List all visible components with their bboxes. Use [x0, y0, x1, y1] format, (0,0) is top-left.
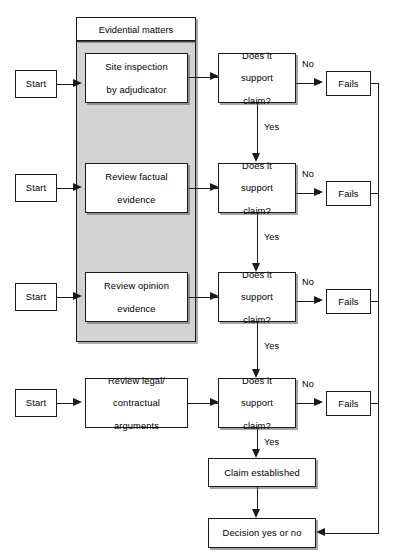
decision-label-row-2-line-3: claim?: [238, 205, 276, 216]
edge-label-yes-row-1: Yes: [264, 122, 279, 132]
arrowhead-claim-to-decision: [252, 509, 260, 518]
process-label-row-3-line-1: Review opinion: [101, 280, 172, 291]
process-label-row-3-line-2: evidence: [101, 303, 172, 314]
process-box-row-4[interactable]: Review legal/ contractual arguments: [85, 378, 188, 428]
arrowhead-start-to-process-row-3: [73, 292, 82, 300]
edge-label-no-row-4: No: [302, 379, 314, 389]
arrowhead-start-to-process-row-2: [73, 183, 82, 191]
start-box-row-3[interactable]: Start: [15, 283, 57, 311]
process-label-row-2-line-1: Review factual: [102, 171, 170, 182]
evidential-matters-header: Evidential matters: [76, 17, 196, 41]
decision-box-row-2[interactable]: Does it support claim?: [218, 163, 296, 213]
decision-label-row-3-line-1: Does it: [238, 269, 276, 280]
fails-label-row-1: Fails: [335, 78, 361, 89]
decision-outcome-label: Decision yes or no: [220, 527, 305, 538]
start-label-row-2: Start: [23, 182, 49, 193]
arrowhead-decision-to-fails-row-2: [314, 188, 323, 196]
process-label-row-2-line-2: evidence: [102, 194, 170, 205]
edge-label-yes-row-3: Yes: [264, 341, 279, 351]
start-label-row-4: Start: [23, 397, 49, 408]
process-label-row-4-line-3: arguments: [105, 420, 168, 431]
decision-label-row-4-line-1: Does it: [238, 375, 276, 386]
connector-yes-row-4: [257, 428, 258, 451]
start-label-row-1: Start: [23, 78, 49, 89]
connector-yes-row-2: [257, 213, 258, 268]
process-box-row-2[interactable]: Review factual evidence: [85, 163, 188, 213]
edge-label-no-row-3: No: [302, 277, 314, 287]
connector-fails-rail-row-3: [371, 301, 379, 302]
connector-fails-rail-row-2: [371, 193, 379, 194]
arrowhead-decision-to-fails-row-3: [314, 296, 323, 304]
process-label-row-1-line-1: Site inspection: [102, 61, 170, 72]
process-label-row-4-line-1: Review legal/: [105, 375, 168, 386]
fails-label-row-2: Fails: [335, 188, 361, 199]
start-label-row-3: Start: [23, 291, 49, 302]
start-box-row-2[interactable]: Start: [15, 174, 57, 202]
decision-box-row-1[interactable]: Does it support claim?: [218, 53, 296, 103]
decision-label-row-1-line-2: support: [238, 72, 276, 83]
connector-claim-to-decision: [257, 487, 258, 511]
connector-rail-to-decision-outcome: [324, 533, 379, 534]
fails-box-row-4[interactable]: Fails: [326, 391, 371, 416]
decision-label-row-2-line-2: support: [238, 182, 276, 193]
connector-fails-rail-row-4: [371, 403, 379, 404]
arrowhead-yes-row-4: [252, 449, 260, 458]
decision-label-row-1-line-1: Does it: [238, 50, 276, 61]
decision-label-row-4-line-3: claim?: [238, 420, 276, 431]
process-label-row-1-line-2: by adjudicator: [102, 84, 170, 95]
decision-label-row-1-line-3: claim?: [238, 95, 276, 106]
evidential-matters-header-label: Evidential matters: [99, 24, 174, 35]
decision-label-row-3-line-2: support: [238, 291, 276, 302]
process-box-row-3[interactable]: Review opinion evidence: [85, 272, 188, 322]
decision-box-row-3[interactable]: Does it support claim?: [218, 272, 296, 322]
connector-yes-row-1: [257, 103, 258, 158]
fails-label-row-3: Fails: [335, 296, 361, 307]
connector-yes-row-3: [257, 322, 258, 374]
start-box-row-4[interactable]: Start: [15, 389, 57, 417]
process-box-row-1[interactable]: Site inspection by adjudicator: [85, 53, 188, 103]
start-box-row-1[interactable]: Start: [15, 70, 57, 98]
fails-box-row-2[interactable]: Fails: [326, 181, 371, 206]
decision-outcome-box[interactable]: Decision yes or no: [208, 518, 316, 548]
edge-label-yes-row-4: Yes: [264, 437, 279, 447]
arrowhead-decision-to-fails-row-1: [314, 78, 323, 86]
claim-established-box[interactable]: Claim established: [208, 458, 316, 487]
rail-vertical-row-1: [378, 83, 379, 533]
fails-box-row-1[interactable]: Fails: [326, 71, 371, 96]
arrowhead-start-to-process-row-1: [73, 79, 82, 87]
fails-box-row-3[interactable]: Fails: [326, 289, 371, 314]
decision-box-row-4[interactable]: Does it support claim?: [218, 378, 296, 428]
decision-label-row-2-line-1: Does it: [238, 160, 276, 171]
edge-label-yes-row-2: Yes: [264, 232, 279, 242]
arrowhead-start-to-process-row-4: [73, 398, 82, 406]
decision-label-row-3-line-3: claim?: [238, 314, 276, 325]
flowchart-canvas: Evidential matters Start Site inspection…: [0, 0, 393, 560]
edge-label-no-row-1: No: [302, 59, 314, 69]
fails-label-row-4: Fails: [335, 398, 361, 409]
edge-label-no-row-2: No: [302, 169, 314, 179]
claim-established-label: Claim established: [221, 467, 303, 478]
decision-label-row-4-line-2: support: [238, 397, 276, 408]
arrowhead-decision-to-fails-row-4: [314, 398, 323, 406]
arrowhead-rail-to-decision-outcome: [316, 528, 325, 536]
process-label-row-4-line-2: contractual: [105, 397, 168, 408]
